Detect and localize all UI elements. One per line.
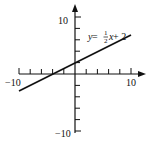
equation-annotation: y = 1 2 x + 2	[87, 29, 126, 45]
x-min-label: −10	[5, 77, 21, 88]
coordinate-plane: −10 10 10 −10 y = 1 2 x + 2	[0, 0, 153, 147]
x-max-label: 10	[126, 77, 136, 88]
x-axis-arrow-icon	[138, 71, 146, 77]
equation-numerator: 1	[104, 29, 108, 37]
equation-denominator: 2	[104, 37, 108, 45]
y-axis-arrow-icon	[72, 4, 78, 12]
equation-plus-two: + 2	[113, 31, 126, 42]
y-min-label: −10	[55, 128, 71, 139]
y-max-label: 10	[58, 15, 68, 26]
equation-equals: =	[92, 31, 98, 42]
